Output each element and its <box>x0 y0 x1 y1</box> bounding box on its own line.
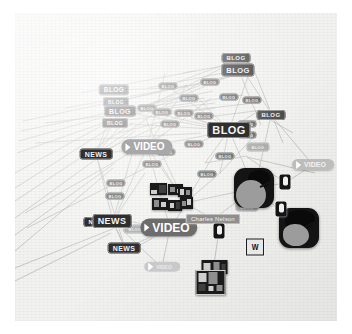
node-news-badge[interactable]: NEWS <box>108 245 141 252</box>
photo-thumbnail <box>152 198 168 210</box>
node-blog-badge[interactable]: BLOG <box>152 110 171 115</box>
node-blog-badge[interactable]: BLOG <box>194 114 213 119</box>
avatar <box>234 168 274 208</box>
node-bookmark-icon[interactable] <box>276 202 287 217</box>
photo-thumbnail <box>150 183 167 195</box>
node-blog-badge[interactable]: BLOG <box>219 95 238 100</box>
node-blog-badge[interactable]: BLOG <box>222 55 251 61</box>
node-news-badge[interactable]: NEWS <box>80 151 113 158</box>
node-blog-badge[interactable]: BLOG <box>197 172 216 177</box>
node-blog-badge[interactable]: BLOG <box>215 154 234 159</box>
node-blog-badge[interactable]: BLOG <box>246 145 269 150</box>
photo-thumbnail <box>180 197 193 209</box>
node-blog-badge[interactable]: BLOG <box>158 84 177 89</box>
node-blog-badge[interactable]: BLOG <box>179 96 198 101</box>
node-blog-badge[interactable]: BLOG <box>257 112 286 118</box>
node-photo-cluster[interactable] <box>150 183 194 215</box>
graph-canvas[interactable]: BLOG BLOG BLOG BLOG BLOG BLOG BLOG BLOG … <box>15 13 337 321</box>
node-blog-badge[interactable]: BLOG <box>242 98 261 103</box>
bookmark-icon <box>280 175 291 190</box>
node-blog-badge[interactable]: BLOG <box>99 86 129 94</box>
w-logo-icon: W <box>246 239 264 256</box>
node-blog-badge[interactable]: BLOG <box>160 122 179 127</box>
node-blog-badge[interactable]: BLOG <box>200 80 219 85</box>
node-blog-badge[interactable]: BLOG <box>221 66 254 75</box>
photo-thumbnail <box>178 187 192 197</box>
node-blog-badge[interactable]: BLOG <box>106 181 125 186</box>
node-video-pill[interactable]: VIDEO <box>292 161 334 169</box>
bookmark-icon <box>276 202 287 217</box>
screenshot-root: BLOG BLOG BLOG BLOG BLOG BLOG BLOG BLOG … <box>0 0 352 334</box>
node-blog-badge[interactable]: BLOG <box>104 108 136 115</box>
node-blog-badge[interactable]: BLOG <box>105 194 124 199</box>
node-news-badge[interactable]: NEWS <box>93 216 132 226</box>
node-bookmark-icon[interactable] <box>214 224 225 239</box>
node-bookmark-icon[interactable] <box>280 175 291 190</box>
node-blog-badge[interactable]: BLOG <box>102 120 128 126</box>
graph-edges-layer <box>15 13 337 321</box>
node-blog-badge-large[interactable]: BLOG <box>207 124 250 136</box>
node-video-pill[interactable]: VIDEO <box>121 141 172 153</box>
node-video-pill[interactable]: VIDEO <box>144 264 180 271</box>
node-blog-badge[interactable]: BLOG <box>184 142 203 147</box>
node-avatar-thumbnail[interactable] <box>234 168 274 208</box>
bookmark-icon <box>214 224 225 239</box>
photo-thumbnail <box>196 270 226 295</box>
node-blog-badge[interactable]: BLOG <box>174 111 193 116</box>
node-blog-badge[interactable]: BLOG <box>142 162 161 167</box>
node-blog-badge[interactable]: BLOG <box>103 99 129 105</box>
node-w-logo[interactable]: W <box>246 239 264 256</box>
node-person-label[interactable]: Charles Nelson <box>186 216 240 222</box>
node-photo-pair[interactable] <box>196 260 229 294</box>
